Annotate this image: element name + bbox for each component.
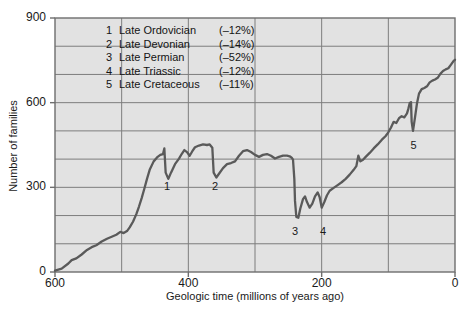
event-label-3: 3 bbox=[288, 225, 302, 237]
event-label-2: 2 bbox=[208, 180, 222, 192]
event-label-1: 1 bbox=[160, 180, 174, 192]
legend: 1Late Ordovician(–12%)2Late Devonian(–14… bbox=[96, 22, 270, 94]
x-tick-label: 200 bbox=[302, 276, 342, 290]
legend-percent: (–11%) bbox=[219, 78, 267, 90]
legend-row: 2Late Devonian(–14%) bbox=[99, 38, 267, 52]
legend-row: 1Late Ordovician(–12%) bbox=[99, 24, 267, 38]
legend-row: 4Late Triassic(–12%) bbox=[99, 65, 267, 79]
legend-number: 2 bbox=[99, 38, 112, 50]
event-label-5: 5 bbox=[407, 139, 421, 151]
x-tick-label: 400 bbox=[168, 276, 208, 290]
legend-row: 3Late Permian(–52%) bbox=[99, 51, 267, 65]
chart-figure: Number of families Geologic time (millio… bbox=[0, 0, 473, 314]
legend-number: 3 bbox=[99, 51, 112, 63]
legend-event-name: Late Ordovician bbox=[119, 24, 219, 36]
legend-percent: (–12%) bbox=[219, 24, 267, 36]
legend-event-name: Late Permian bbox=[119, 51, 219, 63]
legend-percent: (–52%) bbox=[219, 51, 267, 63]
legend-event-name: Late Triassic bbox=[119, 65, 219, 77]
event-label-4: 4 bbox=[316, 225, 330, 237]
legend-percent: (–14%) bbox=[219, 38, 267, 50]
x-tick-label: 600 bbox=[35, 276, 75, 290]
legend-number: 4 bbox=[99, 65, 112, 77]
legend-row: 5Late Cretaceous(–11%) bbox=[99, 78, 267, 92]
legend-percent: (–12%) bbox=[219, 65, 267, 77]
legend-number: 5 bbox=[99, 78, 112, 90]
y-tick-label: 300 bbox=[6, 179, 46, 193]
legend-number: 1 bbox=[99, 24, 112, 36]
y-tick-label: 600 bbox=[6, 95, 46, 109]
x-axis-label: Geologic time (millions of years ago) bbox=[55, 290, 455, 302]
y-tick-label: 900 bbox=[6, 10, 46, 24]
legend-event-name: Late Devonian bbox=[119, 38, 219, 50]
legend-event-name: Late Cretaceous bbox=[119, 78, 219, 90]
x-tick-label: 0 bbox=[435, 276, 473, 290]
